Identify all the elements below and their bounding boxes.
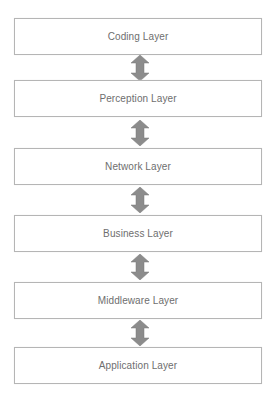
bidirectional-arrow-icon bbox=[130, 55, 150, 81]
layer-box-business: Business Layer bbox=[14, 215, 262, 252]
layer-box-perception: Perception Layer bbox=[14, 80, 262, 117]
layer-label: Business Layer bbox=[103, 228, 173, 239]
bidirectional-arrow-icon bbox=[130, 187, 150, 213]
layer-label: Application Layer bbox=[99, 360, 177, 371]
layer-label: Perception Layer bbox=[99, 93, 176, 104]
layer-label: Coding Layer bbox=[108, 31, 169, 42]
bidirectional-arrow-icon bbox=[130, 120, 150, 146]
layer-label: Network Layer bbox=[105, 161, 171, 172]
layer-box-application: Application Layer bbox=[14, 347, 262, 384]
bidirectional-arrow-icon bbox=[130, 254, 150, 280]
bidirectional-arrow-icon bbox=[130, 320, 150, 346]
layer-box-network: Network Layer bbox=[14, 148, 262, 185]
layer-box-coding: Coding Layer bbox=[14, 18, 262, 55]
layer-box-middleware: Middleware Layer bbox=[14, 282, 262, 319]
layer-label: Middleware Layer bbox=[98, 295, 179, 306]
